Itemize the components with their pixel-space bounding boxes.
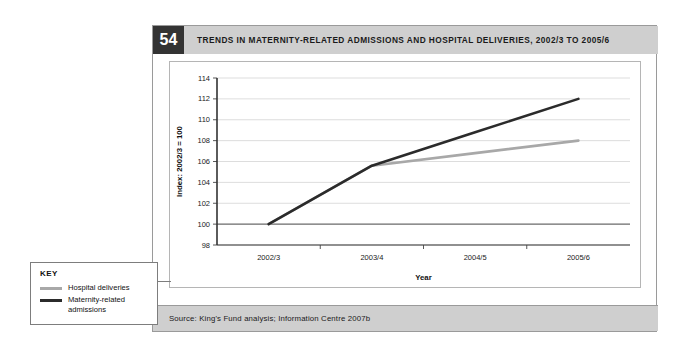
legend-label-hospital-deliveries: Hospital deliveries bbox=[68, 283, 130, 292]
source-bar: Source: King's Fund analysis; Informatio… bbox=[153, 305, 658, 331]
figure-number-badge: 54 bbox=[153, 26, 184, 54]
legend-item-hospital-deliveries: Hospital deliveries bbox=[40, 283, 157, 292]
figure-title-bar: 54 TRENDS IN MATERNITY-RELATED ADMISSION… bbox=[153, 26, 658, 54]
y-tick-label: 106 bbox=[197, 157, 210, 166]
x-tick-label: 2002/3 bbox=[257, 253, 280, 262]
page-title: TRENDS IN MATERNITY-RELATED ADMISSIONS A… bbox=[184, 26, 658, 54]
legend-swatch-hospital-deliveries bbox=[40, 287, 62, 290]
y-tick-label: 98 bbox=[202, 241, 210, 250]
y-tick-label: 104 bbox=[197, 178, 210, 187]
legend-heading: KEY bbox=[40, 269, 157, 278]
y-tick-label: 102 bbox=[197, 199, 210, 208]
legend-item-maternity-admissions: Maternity-related admissions bbox=[40, 295, 157, 314]
y-tick-label: 110 bbox=[198, 115, 210, 124]
legend-swatch-maternity-admissions bbox=[40, 299, 62, 302]
y-tick-label: 112 bbox=[198, 94, 210, 103]
chart-plot-panel: 981001021041061081101121142002/32003/420… bbox=[169, 61, 641, 288]
figure-container: 54 TRENDS IN MATERNITY-RELATED ADMISSION… bbox=[152, 25, 657, 332]
chart-legend: KEY Hospital deliveries Maternity-relate… bbox=[30, 262, 158, 325]
y-tick-label: 108 bbox=[197, 136, 210, 145]
line-chart: 981001021041061081101121142002/32003/420… bbox=[170, 62, 640, 287]
key-connector-line bbox=[157, 281, 171, 282]
legend-label-maternity-admissions: Maternity-related admissions bbox=[68, 295, 152, 314]
x-axis-title: Year bbox=[415, 273, 431, 282]
x-tick-label: 2003/4 bbox=[360, 253, 383, 262]
y-tick-label: 100 bbox=[197, 220, 210, 229]
y-tick-label: 114 bbox=[198, 74, 210, 83]
source-text: Source: King's Fund analysis; Informatio… bbox=[169, 314, 370, 323]
x-tick-label: 2005/6 bbox=[567, 253, 590, 262]
x-tick-label: 2004/5 bbox=[464, 253, 487, 262]
y-axis-title: Index: 2002/3 = 100 bbox=[175, 125, 184, 197]
